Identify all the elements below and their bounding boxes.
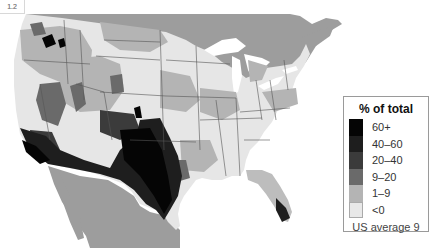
legend-title: % of total <box>344 102 428 116</box>
legend-swatch <box>349 202 363 219</box>
figure-number-label: 1.2 <box>0 0 25 14</box>
legend-item-below-0: <0 <box>344 202 428 219</box>
legend-footnote: US average 9 <box>344 221 428 233</box>
legend-item-1-9: 1–9 <box>344 185 428 202</box>
legend-swatch <box>349 136 363 153</box>
legend-item-label: 9–20 <box>372 171 396 183</box>
legend-item-label: 60+ <box>372 121 391 133</box>
legend-swatch <box>349 152 363 169</box>
legend-swatch <box>349 169 363 186</box>
legend-item-60-plus: 60+ <box>344 119 428 136</box>
legend-swatch <box>349 119 363 136</box>
legend-item-20-40: 20–40 <box>344 152 428 169</box>
legend-item-label: 20–40 <box>372 154 403 166</box>
legend-swatch <box>349 185 363 202</box>
map-legend: % of total 60+ 40–60 20–40 9–20 1–9 <0 U… <box>343 96 429 232</box>
legend-item-9-20: 9–20 <box>344 169 428 186</box>
legend-item-label: 1–9 <box>372 187 390 199</box>
legend-item-40-60: 40–60 <box>344 136 428 153</box>
legend-item-label: <0 <box>372 204 385 216</box>
legend-item-label: 40–60 <box>372 138 403 150</box>
